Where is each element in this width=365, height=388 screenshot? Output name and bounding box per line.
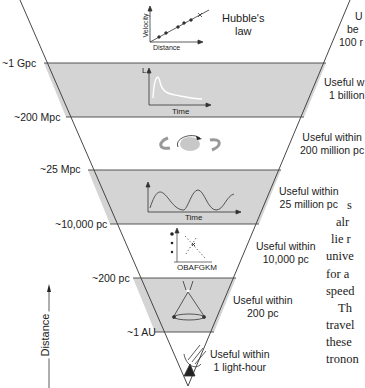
hubble-law-label: Hubble's law: [222, 12, 264, 38]
hubble-law-icon: [148, 6, 209, 44]
range-label-galaxy: Useful within 200 million pc: [300, 131, 364, 157]
body-text-line: speed: [326, 283, 354, 300]
level-label-200pc: ~200 pc: [92, 272, 130, 284]
range-label-hubble: U be 100 r: [339, 10, 363, 49]
distance-axis-label: Distance: [39, 312, 51, 359]
range-parallax-line2: 200 pc: [233, 307, 293, 320]
level-label-1au: ~1 AU: [127, 326, 156, 338]
range-hubble-line1: U: [339, 10, 363, 23]
range-hr-line2: 10,000 pc: [256, 253, 316, 266]
range-hubble-line3: 100 r: [339, 36, 363, 49]
range-supernova-line2: 1 billion: [324, 89, 365, 102]
cepheid-x-label: Time: [185, 213, 202, 222]
range-radar-line1: Useful within: [210, 348, 270, 361]
body-text-line: s: [347, 197, 352, 214]
galaxy-rotation-icon: [161, 136, 220, 151]
range-supernova-line1: Useful w: [324, 76, 365, 89]
body-text-line: tronon: [326, 351, 359, 368]
body-text-line: for a: [326, 266, 349, 283]
level-label-200mpc: ~200 Mpc: [14, 111, 60, 123]
range-parallax-line1: Useful within: [233, 294, 293, 307]
range-label-cepheid: Useful within 25 million pc: [279, 185, 339, 211]
range-label-radar: Useful within 1 light-hour: [210, 348, 270, 374]
range-galaxy-line2: 200 million pc: [300, 144, 364, 157]
level-label-25mpc: ~25 Mpc: [40, 163, 81, 175]
hr-diagram-icon: [170, 228, 212, 262]
range-hr-line1: Useful within: [256, 240, 316, 253]
radar-dish-icon: [184, 345, 206, 376]
hubble-x-axis-label: Distance: [153, 44, 180, 51]
hubble-label-line1: Hubble's: [222, 12, 264, 25]
hubble-label-line2: law: [222, 25, 264, 38]
range-galaxy-line1: Useful within: [300, 131, 364, 144]
range-cepheid-line2: 25 million pc: [279, 198, 339, 211]
light-curve-x-label: Time: [172, 107, 189, 116]
body-text-line: travel: [326, 317, 354, 334]
range-label-supernova: Useful w 1 billion: [324, 76, 365, 102]
range-label-parallax: Useful within 200 pc: [233, 294, 293, 320]
body-text-line: alr: [336, 214, 349, 231]
level-label-10000pc: ~10,000 pc: [55, 218, 107, 230]
level-label-1gpc: ~1 Gpc: [2, 57, 36, 69]
light-curve-y-label: L: [142, 66, 146, 75]
range-hubble-line2: be: [339, 23, 363, 36]
range-radar-line2: 1 light-hour: [210, 361, 270, 374]
body-text-line: Th: [338, 300, 352, 317]
range-cepheid-line1: Useful within: [279, 185, 339, 198]
body-text-line: these: [326, 334, 352, 351]
body-text-line: lie r: [331, 231, 351, 248]
hubble-y-axis-label: Velocity: [142, 13, 149, 37]
body-text-line: unive: [326, 248, 354, 265]
hr-diagram-x-label: OBAFGKM: [177, 263, 217, 272]
range-label-hr: Useful within 10,000 pc: [256, 240, 316, 266]
